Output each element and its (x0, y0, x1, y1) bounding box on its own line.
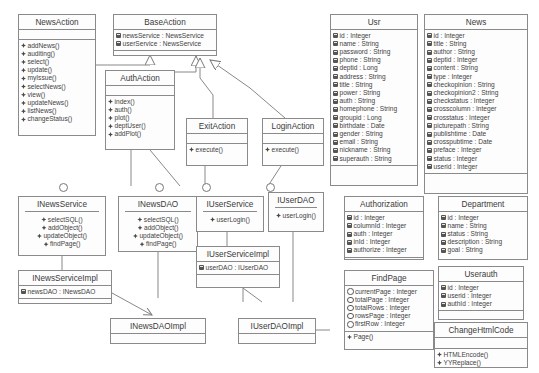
class-box-baseaction[interactable]: BaseAction newsService : NewsService use… (113, 14, 217, 56)
class-attributes-authorization: id : Integer columnId : Integer auth : I… (345, 212, 423, 258)
attribute-icon (427, 41, 432, 46)
attribute-icon (441, 232, 446, 237)
attribute-icon (333, 74, 338, 79)
class-title-inewsdaoimpl: INewsDAOImpl (111, 319, 205, 334)
method-icon (437, 360, 442, 365)
class-box-authorization[interactable]: Authorization id : Integer columnId : In… (344, 196, 424, 260)
method-label: auth() (115, 106, 132, 114)
attribute-label: address : String (340, 73, 386, 81)
class-box-iuserdaoimpl[interactable]: IUserDAOImpl (238, 318, 316, 344)
class-box-inewsdao[interactable]: INewsDAO selectSQL() addObject() updateO… (118, 196, 198, 252)
class-title-loginaction: LoginAction (263, 119, 323, 134)
method-icon (108, 132, 113, 137)
attribute-label: groupid : Long (340, 114, 382, 122)
class-title-iuserserviceimpl: IUserServiceImpl (197, 247, 279, 262)
title-underline (275, 207, 317, 208)
attribute-label: content : String (434, 64, 478, 72)
attribute-icon (427, 50, 432, 55)
method-label: myIssue() (28, 74, 57, 82)
class-title-exitaction: ExitAction (187, 119, 247, 134)
method-icon (210, 217, 215, 222)
attribute-label: totalRows : Integer (355, 304, 410, 312)
class-title-baseaction: BaseAction (114, 15, 216, 30)
interface-lollipop-iuserservice (202, 183, 211, 192)
attribute-label: inId : Integer (354, 238, 391, 246)
attribute-icon (347, 215, 352, 220)
attribute-icon (333, 99, 338, 104)
attribute-label: id : Integer (448, 214, 479, 222)
attribute-icon (347, 313, 354, 320)
attribute-icon (333, 132, 338, 137)
attribute-icon (441, 240, 446, 245)
method-icon (21, 84, 26, 89)
class-methods-iuserserviceimpl (197, 275, 279, 284)
class-body-iuserdaoimpl (239, 334, 315, 343)
method-label: selectNews() (28, 83, 66, 91)
method-label: updateObject() (43, 232, 87, 240)
class-box-iuserserviceimpl[interactable]: IUserServiceImpl userDAO : IUserDAO (196, 246, 280, 288)
method-label: findPage() (50, 240, 80, 248)
class-attributes-authaction (106, 86, 174, 96)
attribute-label: goal : String (448, 246, 483, 254)
class-attributes-iuserserviceimpl: userDAO : IUserDAO (197, 262, 279, 275)
class-box-news[interactable]: News id : Integer title : String author … (424, 14, 528, 194)
class-box-iuserservice[interactable]: IUserService userLogin() (196, 196, 264, 232)
attribute-icon (347, 223, 352, 228)
attribute-label: userid : Integer (434, 163, 478, 171)
method-label: update() (28, 66, 53, 74)
class-box-authaction[interactable]: AuthAction index() auth() plot() deptUse… (105, 70, 175, 150)
class-methods-changehtmlcode: HTMLEncode() YYReplace() (435, 349, 527, 369)
class-box-department[interactable]: Department id : Integer name : String st… (438, 196, 528, 260)
method-icon (21, 117, 26, 122)
method-label: addObject() (48, 224, 82, 232)
class-attributes-findpage: currentPage : Integer totalPage : Intege… (345, 286, 433, 332)
class-box-userauth[interactable]: Userauth id : Integer userid : Integer a… (438, 266, 524, 320)
class-title-inewsserviceimpl: INewsServiceImpl (19, 271, 111, 286)
attribute-icon (427, 91, 432, 96)
attribute-icon (347, 297, 354, 304)
class-methods-inewsserviceimpl (19, 299, 111, 308)
method-icon (41, 217, 46, 222)
attribute-icon (347, 248, 352, 253)
attribute-label: email : String (340, 138, 378, 146)
class-methods-loginaction: execute() (263, 144, 323, 156)
method-label: execute() (196, 146, 224, 154)
attribute-label: preface : Integer (434, 146, 482, 154)
class-box-iuserdao[interactable]: IUserDAO userLogin() (268, 192, 324, 232)
class-box-changehtmlcode[interactable]: ChangeHtmlCode HTMLEncode() YYReplace() (434, 322, 528, 368)
class-box-findpage[interactable]: FindPage currentPage : Integer totalPage… (344, 270, 434, 350)
attribute-icon (347, 232, 352, 237)
class-box-inewsserviceimpl[interactable]: INewsServiceImpl newsDAO : INewsDAO (18, 270, 112, 304)
title-underline (125, 211, 191, 212)
class-box-loginaction[interactable]: LoginAction execute() (262, 118, 324, 166)
attribute-icon (116, 41, 121, 46)
class-box-exitaction[interactable]: ExitAction execute() (186, 118, 248, 166)
attribute-label: power : String (340, 89, 381, 97)
class-box-inewsdaoimpl[interactable]: INewsDAOImpl (110, 318, 206, 344)
attribute-icon (333, 41, 338, 46)
method-label: deptUser() (115, 122, 146, 130)
class-box-inewsservice[interactable]: INewsService selectSQL() addObject() upd… (18, 196, 106, 256)
method-label: index() (115, 98, 135, 106)
attribute-label: userDAO : IUserDAO (206, 264, 269, 272)
class-attributes-loginaction (263, 134, 323, 144)
attribute-icon (427, 74, 432, 79)
attribute-icon (441, 248, 446, 253)
attribute-label: id : Integer (434, 32, 465, 40)
class-title-news: News (425, 15, 527, 30)
class-title-changehtmlcode: ChangeHtmlCode (435, 323, 527, 338)
class-box-usr[interactable]: Usr id : Integer name : String password … (330, 14, 418, 186)
method-icon (140, 242, 145, 247)
attribute-icon (333, 58, 338, 63)
attribute-icon (333, 123, 338, 128)
attribute-icon (333, 33, 338, 38)
class-box-newsaction[interactable]: NewsAction addNews() auditing() select()… (18, 14, 96, 136)
method-icon (108, 116, 113, 121)
class-methods-findpage: Page() (345, 332, 433, 344)
interface-lollipop-inewsdao (155, 183, 164, 192)
class-attributes-userauth: id : Integer userid : Integer authId : I… (439, 282, 523, 311)
attribute-icon (441, 223, 446, 228)
class-title-userauth: Userauth (439, 267, 523, 282)
class-title-authorization: Authorization (345, 197, 423, 212)
attribute-icon (427, 33, 432, 38)
